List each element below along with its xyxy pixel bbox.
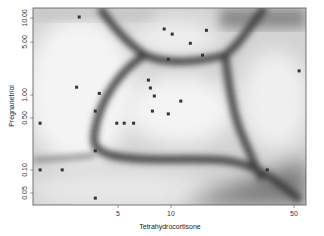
data-point xyxy=(98,92,101,95)
data-point xyxy=(147,79,150,82)
y-tick-label: 1.00 xyxy=(21,88,28,102)
scatter-plot: 5 10 50 Tetrahydrocortisone 0.05 0.10 0.… xyxy=(0,0,324,236)
y-tick-label: 0.50 xyxy=(21,111,28,125)
data-point xyxy=(266,168,269,171)
data-point xyxy=(179,100,182,103)
x-axis: 5 10 50 Tetrahydrocortisone xyxy=(116,205,298,231)
data-point xyxy=(171,33,174,36)
data-point xyxy=(94,110,97,113)
data-point xyxy=(205,29,208,32)
y-tick-label: 0.10 xyxy=(21,163,28,177)
y-tick-label: 5.00 xyxy=(21,35,28,49)
x-tick-label: 10 xyxy=(167,210,175,217)
data-point xyxy=(167,112,170,115)
data-point xyxy=(163,28,166,31)
data-point xyxy=(78,16,81,19)
y-axis: 0.05 0.10 0.50 1.00 5.00 10.00 Pregnanet… xyxy=(8,9,33,200)
background-density xyxy=(25,8,310,210)
data-point xyxy=(115,122,118,125)
data-point xyxy=(151,110,154,113)
data-point xyxy=(298,69,301,72)
y-tick-label: 10.00 xyxy=(21,9,28,27)
data-point xyxy=(153,95,156,98)
data-point xyxy=(167,58,170,61)
y-tick-label: 0.05 xyxy=(21,186,28,200)
x-tick-label: 50 xyxy=(290,210,298,217)
data-point xyxy=(61,168,64,171)
data-point xyxy=(123,122,126,125)
data-point xyxy=(39,122,42,125)
data-point xyxy=(132,122,135,125)
y-axis-title: Pregnanetriol xyxy=(8,85,16,127)
x-tick-label: 5 xyxy=(116,210,120,217)
data-point xyxy=(201,54,204,57)
data-point xyxy=(94,197,97,200)
data-point xyxy=(75,86,78,89)
data-point xyxy=(39,168,42,171)
x-axis-title: Tetrahydrocortisone xyxy=(139,223,201,231)
data-point xyxy=(189,42,192,45)
data-point xyxy=(149,87,152,90)
data-point xyxy=(94,149,97,152)
